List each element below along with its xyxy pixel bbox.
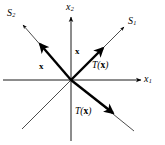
vector-tx-on-s2-label: T(x) [75,107,91,117]
vector-tx-on-s1-label: T(x) [92,61,108,71]
diagram-canvas [0,0,165,145]
vector-x-on-s1-label: x [75,47,80,56]
line-s2-label: S2 [7,8,15,19]
tx-s1-suffix: ) [105,60,108,70]
vector-x-on-s2-label: x [39,62,44,71]
vector-x-on-s2 [40,44,71,80]
linear-transformation-diagram: x1 x2 S1 S2 x x T(x) T(x) [0,0,165,145]
x2-axis-label: x2 [66,2,74,13]
x1-axis-label: x1 [144,74,152,85]
line-s1-label: S1 [128,16,136,27]
tx-s2-suffix: ) [88,106,91,116]
